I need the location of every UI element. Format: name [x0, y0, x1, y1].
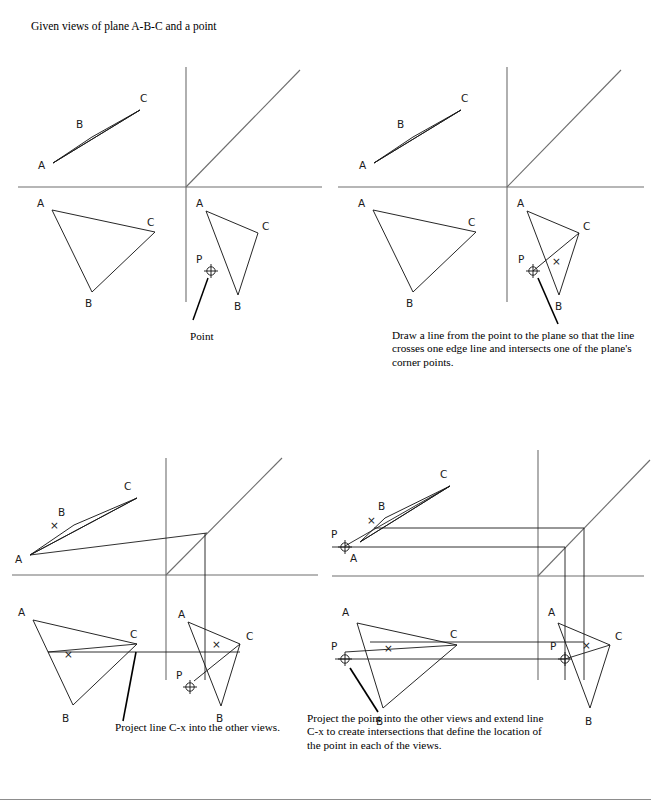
point-p-label: P [196, 253, 202, 265]
top-view-intersection-x: × [367, 514, 376, 526]
front-view-label-a: A [342, 606, 350, 618]
top-view-label-a: A [38, 159, 46, 171]
top-view-plane-abc [53, 110, 140, 163]
front-view-plane-abc [357, 623, 457, 708]
top-view-projected-line-c-x [30, 533, 207, 555]
top-view-label-b: B [397, 118, 404, 130]
side-view-intersection-x: × [582, 639, 591, 651]
panel-2-caption: Draw a line from the point to the plane … [392, 329, 642, 369]
panel-1-caption: Point [190, 330, 214, 343]
top-view-label-b: B [378, 500, 385, 512]
front-view-point-p-marker [338, 652, 352, 666]
front-view-label-a: A [18, 606, 26, 618]
point-p-marker [526, 264, 540, 278]
side-view-label-a: A [196, 197, 204, 209]
front-view-intersection-x: × [64, 648, 73, 660]
figure-title: Given views of plane A-B-C and a point [31, 20, 217, 32]
panel-1-given-views: A B C A B C A B C P [0, 52, 325, 382]
side-view-intersection-x: × [212, 638, 221, 650]
side-view-label-a: A [517, 197, 525, 209]
side-view-label-a: A [548, 606, 556, 618]
top-view-label-a: A [15, 553, 23, 565]
point-p-marker [183, 680, 197, 694]
top-view-label-c: C [140, 92, 147, 104]
caption-leader-line [350, 668, 378, 712]
panel-4-caption: Project the point into the other views a… [307, 712, 557, 752]
point-leader-line [193, 278, 208, 320]
top-view-plane-abc [374, 110, 461, 163]
side-view-label-a: A [178, 608, 186, 620]
side-view-label-b: B [585, 715, 592, 727]
front-view-label-b: B [85, 297, 92, 309]
top-view-label-c: C [124, 480, 131, 492]
front-view-plane-abc [33, 620, 137, 705]
front-view-label-b: B [406, 297, 413, 309]
front-view-plane-abc [52, 210, 155, 292]
side-view-label-c: C [246, 630, 253, 642]
reference-axes [332, 450, 650, 680]
reference-axes [18, 67, 322, 302]
front-view-plane-abc [373, 210, 476, 292]
point-p-label: P [518, 253, 524, 265]
top-view-extended-line-c-x [345, 486, 450, 546]
panel-3-project-line: A B C × A B C × A B C × P [0, 430, 325, 760]
front-view-label-c: C [147, 216, 154, 228]
top-view-label-a: A [359, 159, 367, 171]
front-view-point-p-label: P [331, 640, 337, 652]
top-view-plane-abc [30, 498, 137, 555]
side-view-plane-abc [188, 622, 240, 706]
front-view-label-c: C [468, 216, 475, 228]
front-view-intersection-x: × [384, 642, 393, 654]
bottom-rule [0, 799, 651, 800]
point-p-marker [204, 264, 218, 278]
side-view-intersection-x: × [552, 255, 561, 267]
reference-axes [12, 458, 318, 680]
top-view-label-b: B [58, 506, 65, 518]
top-view-label-c: C [461, 92, 468, 104]
top-view-intersection-x: × [50, 519, 59, 531]
reference-axes [338, 67, 644, 302]
side-view-label-b: B [234, 300, 241, 312]
point-p-label: P [176, 669, 182, 681]
side-view-label-c: C [262, 220, 269, 232]
front-view-line-c-x [48, 644, 137, 652]
side-view-plane-abc [527, 211, 579, 295]
side-view-label-b: B [555, 300, 562, 312]
caption-leader-line [123, 652, 136, 721]
front-view-label-a: A [358, 197, 366, 209]
front-view-label-c: C [450, 628, 457, 640]
panel-4-project-point: A B C × P A B C × P A B C × P [310, 430, 635, 760]
top-view-label-b: B [76, 118, 83, 130]
side-view-label-c: C [615, 630, 622, 642]
front-view-label-b: B [62, 712, 69, 724]
front-view-label-c: C [130, 628, 137, 640]
side-view-point-p-label: P [550, 640, 556, 652]
top-view-label-a: A [350, 552, 358, 564]
side-view-plane-abc [206, 211, 258, 295]
front-view-extended-line-c-x [345, 645, 457, 652]
front-view-label-a: A [37, 197, 45, 209]
top-view-point-p-label: P [331, 528, 337, 540]
top-view-label-c: C [440, 468, 447, 480]
side-view-label-c: C [583, 220, 590, 232]
